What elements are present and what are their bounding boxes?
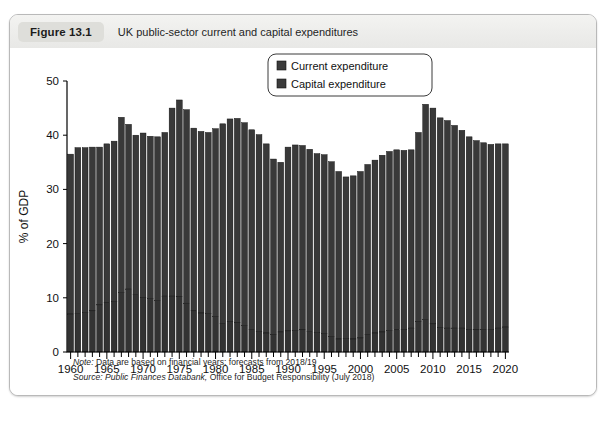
bar-current-1996 xyxy=(329,162,335,337)
bar-capital-1982 xyxy=(227,322,233,352)
bar-current-2018 xyxy=(488,144,494,329)
bar-current-1989 xyxy=(278,162,284,332)
bar-capital-2003 xyxy=(379,332,385,352)
bar-current-1969 xyxy=(133,135,139,294)
bar-capital-1983 xyxy=(234,323,240,352)
note-line: Note: Data are based on financial years;… xyxy=(73,355,573,370)
bar-current-1965 xyxy=(104,144,110,303)
bar-current-2005 xyxy=(394,150,400,330)
bar-capital-1965 xyxy=(104,303,110,352)
bar-current-2002 xyxy=(372,160,378,333)
bar-current-1986 xyxy=(256,135,262,332)
bar-current-2015 xyxy=(466,137,472,329)
figure-caption-bar: Figure 13.1 UK public-sector current and… xyxy=(10,15,596,49)
bar-current-1963 xyxy=(89,147,95,311)
bar-current-1990 xyxy=(285,147,291,331)
bar-capital-1986 xyxy=(256,331,262,352)
bar-current-1992 xyxy=(300,146,306,330)
bar-capital-2014 xyxy=(459,328,465,352)
bar-capital-2005 xyxy=(394,330,400,352)
bar-current-2020 xyxy=(502,144,508,327)
bar-current-2004 xyxy=(387,151,393,330)
bar-capital-1995 xyxy=(321,334,327,352)
bar-current-1976 xyxy=(184,110,190,303)
source-line: Source: Public Finances Databank, Office… xyxy=(73,370,573,385)
bar-capital-2019 xyxy=(495,328,501,352)
bar-current-1964 xyxy=(97,147,103,305)
bar-capital-2017 xyxy=(481,329,487,352)
legend-label-capital: Capital expenditure xyxy=(291,78,386,90)
bar-capital-2016 xyxy=(474,330,480,352)
bar-capital-1967 xyxy=(118,292,124,352)
y-tick-label: 40 xyxy=(46,129,59,141)
bar-current-1966 xyxy=(111,141,117,301)
legend-swatch-current xyxy=(277,61,286,70)
bar-capital-2007 xyxy=(408,328,414,352)
bar-current-2009 xyxy=(423,104,429,319)
bar-capital-1970 xyxy=(140,297,146,352)
bar-capital-1969 xyxy=(133,295,139,352)
figure-notes: Note: Data are based on financial years;… xyxy=(73,355,573,385)
bar-current-2006 xyxy=(401,150,407,329)
bar-current-1962 xyxy=(82,148,88,313)
expenditure-stacked-bar-chart: 01020304050% of GDP196019651970197519801… xyxy=(10,48,597,396)
figure-card: Figure 13.1 UK public-sector current and… xyxy=(9,14,597,396)
y-tick-label: 30 xyxy=(46,183,59,195)
bar-current-1970 xyxy=(140,133,146,297)
bar-current-1960 xyxy=(68,154,74,314)
y-tick-label: 10 xyxy=(46,292,59,304)
bar-capital-1990 xyxy=(285,331,291,352)
bar-capital-1972 xyxy=(155,301,161,352)
bar-current-1979 xyxy=(205,132,211,313)
bar-current-2000 xyxy=(358,172,364,338)
y-tick-label: 50 xyxy=(46,75,59,87)
bar-capital-1989 xyxy=(278,332,284,352)
bar-capital-1977 xyxy=(191,311,197,352)
bar-capital-1981 xyxy=(220,323,226,352)
bar-capital-1985 xyxy=(249,329,255,352)
bar-capital-1987 xyxy=(263,333,269,352)
bar-current-1988 xyxy=(271,159,277,335)
legend-label-current: Current expenditure xyxy=(291,60,388,72)
bar-capital-1964 xyxy=(97,305,103,352)
bars-layer xyxy=(68,100,509,352)
bar-capital-2009 xyxy=(423,319,429,352)
bar-current-2014 xyxy=(459,130,465,328)
figure-number-badge: Figure 13.1 xyxy=(18,22,104,42)
bar-capital-1992 xyxy=(300,330,306,352)
bar-capital-2000 xyxy=(358,338,364,352)
y-tick-label: 20 xyxy=(46,238,59,250)
bar-capital-1996 xyxy=(329,336,335,352)
bar-capital-1962 xyxy=(82,312,88,352)
bar-capital-1991 xyxy=(292,330,298,352)
note-label: Note: xyxy=(73,357,94,367)
note-text: Data are based on financial years; forec… xyxy=(94,357,317,367)
bar-capital-1994 xyxy=(314,332,320,352)
bar-current-2017 xyxy=(481,143,487,329)
bar-current-1967 xyxy=(118,117,124,292)
bar-current-2003 xyxy=(379,155,385,332)
bar-current-1977 xyxy=(191,128,197,311)
bar-current-1985 xyxy=(249,130,255,329)
bar-current-1971 xyxy=(147,136,153,298)
bar-capital-1999 xyxy=(350,339,356,352)
bar-capital-2015 xyxy=(466,329,472,352)
bar-current-1980 xyxy=(213,129,219,317)
bar-capital-2004 xyxy=(387,330,393,352)
bar-current-1978 xyxy=(198,131,204,313)
y-axis-title: % of GDP xyxy=(17,190,31,243)
bar-capital-2002 xyxy=(372,333,378,352)
chart-legend: Current expenditureCapital expenditure xyxy=(268,54,432,96)
bar-current-1972 xyxy=(155,137,161,301)
bar-current-1991 xyxy=(292,145,298,330)
bar-current-2008 xyxy=(416,132,422,321)
bar-current-1993 xyxy=(307,149,313,331)
chart-plot-area: 01020304050% of GDP196019651970197519801… xyxy=(10,48,596,395)
bar-current-1961 xyxy=(75,148,81,314)
bar-capital-1974 xyxy=(169,296,175,352)
bar-capital-1973 xyxy=(162,296,168,352)
bar-current-1982 xyxy=(227,119,233,322)
bar-current-1968 xyxy=(126,124,132,289)
bar-current-2011 xyxy=(437,118,443,328)
source-label: Source: xyxy=(73,372,103,382)
